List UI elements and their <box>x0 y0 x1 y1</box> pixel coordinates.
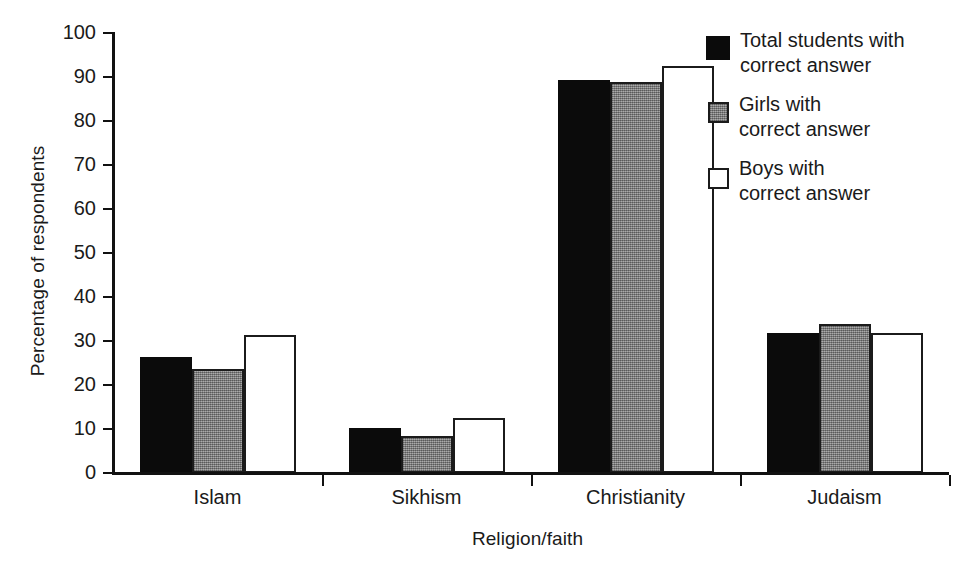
bar-judaism-boys <box>871 333 923 473</box>
bar-sikhism-girls <box>401 436 453 473</box>
y-axis-tick-label: 80 <box>44 110 96 130</box>
legend-label-boys: Boys withcorrect answer <box>739 156 870 206</box>
bar-islam-boys <box>244 335 296 473</box>
x-axis-tick <box>322 475 324 486</box>
x-axis-title: Religion/faith <box>105 528 950 550</box>
bar-sikhism-total <box>349 428 401 473</box>
legend-label-total: Total students withcorrect answer <box>740 28 905 78</box>
y-axis-tick <box>103 252 113 254</box>
gray-filled-square-icon <box>708 102 729 123</box>
black-filled-square-icon <box>706 36 730 60</box>
y-axis-tick-label: 100 <box>44 22 96 42</box>
x-axis-tick-label: Christianity <box>531 486 740 508</box>
x-axis-tick-label: Sikhism <box>322 486 531 508</box>
legend-item-boys[interactable]: Boys withcorrect answer <box>706 156 958 206</box>
x-axis-tick-label: Islam <box>113 486 322 508</box>
x-axis-tick <box>531 475 533 486</box>
y-axis-tick-label: 0 <box>44 462 96 482</box>
bar-christianity-girls <box>610 82 662 473</box>
bar-christianity-total <box>558 80 610 473</box>
y-axis-tick-label: 10 <box>44 418 96 438</box>
legend-item-girls[interactable]: Girls withcorrect answer <box>706 92 958 142</box>
x-axis-tick <box>949 475 951 486</box>
bar-judaism-girls <box>819 324 871 473</box>
y-axis-tick <box>103 296 113 298</box>
x-axis-tick <box>740 475 742 486</box>
y-axis-tick <box>103 208 113 210</box>
legend-item-total[interactable]: Total students withcorrect answer <box>706 28 958 78</box>
y-axis-tick <box>103 340 113 342</box>
y-axis-tick-label: 20 <box>44 374 96 394</box>
chart-legend: Total students withcorrect answer Girls … <box>706 28 958 220</box>
y-axis-tick-label: 30 <box>44 330 96 350</box>
y-axis-tick <box>103 32 113 34</box>
bar-islam-total <box>140 357 192 473</box>
y-axis-tick <box>103 76 113 78</box>
x-axis-tick-label: Judaism <box>740 486 949 508</box>
y-axis-tick <box>103 164 113 166</box>
y-axis-tick <box>103 120 113 122</box>
bar-judaism-total <box>767 333 819 473</box>
y-axis-tick-label: 40 <box>44 286 96 306</box>
y-axis-tick-label: 60 <box>44 198 96 218</box>
y-axis-tick-label: 70 <box>44 154 96 174</box>
y-axis-tick <box>103 428 113 430</box>
y-axis-tick-label: 50 <box>44 242 96 262</box>
bar-islam-girls <box>192 369 244 473</box>
bar-sikhism-boys <box>453 418 505 473</box>
bar-chart: Percentage of respondents 01020304050607… <box>0 0 963 576</box>
legend-label-girls: Girls withcorrect answer <box>739 92 870 142</box>
y-axis-tick-label: 90 <box>44 66 96 86</box>
white-outlined-square-icon <box>708 168 729 189</box>
y-axis-tick <box>103 384 113 386</box>
